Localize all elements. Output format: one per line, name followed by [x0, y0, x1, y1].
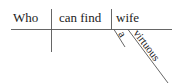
- sentence-diagram: Who can find wife a virtuous: [0, 0, 172, 84]
- modifier-word-virtuous: virtuous: [131, 27, 162, 63]
- subject-word: Who: [13, 10, 38, 25]
- modifier-word-a: a: [116, 29, 129, 40]
- object-word: wife: [116, 10, 139, 25]
- verb-word: can find: [59, 10, 102, 25]
